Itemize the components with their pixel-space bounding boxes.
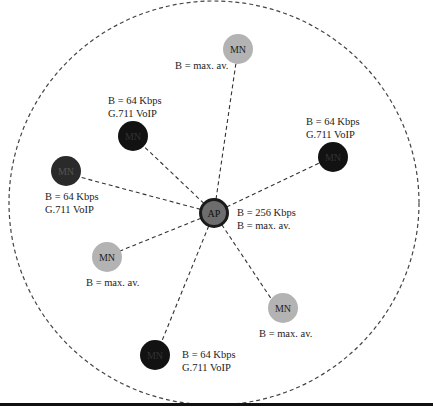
ap-bandwidth-label: B = 256 Kbps (237, 206, 296, 219)
bottom-rule (0, 403, 433, 406)
mn-upper-left-annotation: B = 64 Kbps G.711 VoIP (108, 94, 161, 120)
link-mn-top (214, 49, 238, 213)
mn-left-node: MN (51, 156, 81, 186)
svg-text:MN: MN (230, 44, 246, 55)
mn-right-annotation: B = 64 Kbps G.711 VoIP (306, 115, 359, 141)
svg-text:MN: MN (125, 131, 141, 142)
mn-bottom-annotation: B = 64 Kbps G.711 VoIP (182, 348, 235, 374)
mn-lower-right-node: MN (268, 293, 298, 323)
mn-bottom-node: MN (140, 340, 170, 370)
svg-text:MN: MN (58, 166, 74, 177)
link-mn-lower-left (110, 213, 214, 255)
mn-top-annotation: B = max. av. (175, 59, 228, 72)
link-mn-upper-left (133, 136, 214, 213)
svg-text:MN: MN (275, 303, 291, 314)
svg-text:MN: MN (147, 350, 163, 361)
mn-right-node: MN (318, 142, 348, 172)
svg-text:MN: MN (99, 252, 115, 263)
access-point-node: AP (201, 200, 228, 227)
mn-upper-left-node: MN (118, 121, 148, 151)
svg-text:MN: MN (325, 152, 341, 163)
mn-lower-left-annotation: B = max. av. (86, 276, 139, 289)
link-mn-bottom (157, 213, 214, 353)
ap-bandwidth-label-2: B = max. av. (237, 219, 296, 232)
mn-lower-right-annotation: B = max. av. (259, 327, 312, 340)
link-mn-right (214, 157, 332, 213)
ap-annotation: B = 256 Kbps B = max. av. (237, 206, 296, 232)
mn-left-annotation: B = 64 Kbps G.711 VoIP (45, 190, 98, 216)
svg-text:AP: AP (208, 208, 221, 219)
mn-lower-left-node: MN (92, 242, 122, 272)
